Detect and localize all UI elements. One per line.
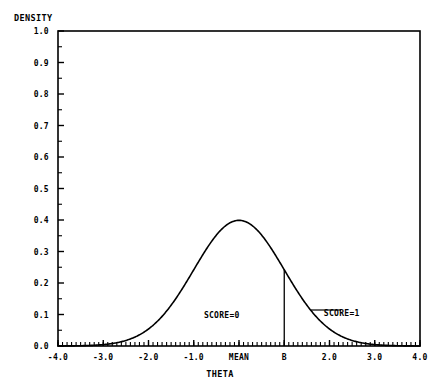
y-tick-label: 0.1 [34, 311, 49, 320]
x-tick-label: B [282, 353, 287, 362]
x-tick-label: MEAN [229, 353, 249, 362]
annotation-score-0: SCORE=0 [204, 311, 240, 320]
x-tick-label: -1.0 [184, 353, 204, 362]
annotation-score-1: SCORE=1 [324, 309, 360, 318]
y-tick-label: 0.5 [34, 185, 49, 194]
y-tick-label: 0.6 [34, 153, 49, 162]
y-axis-title: DENSITY [14, 13, 53, 23]
x-tick-label: -4.0 [48, 353, 68, 362]
y-tick-label: 0.0 [34, 342, 49, 351]
x-axis-title: THETA [206, 369, 234, 379]
y-tick-label: 0.4 [34, 216, 49, 225]
x-tick-label: 2.0 [322, 353, 337, 362]
y-tick-label: 0.7 [34, 122, 49, 131]
x-tick-label: 3.0 [367, 353, 382, 362]
x-tick-label: -3.0 [93, 353, 113, 362]
y-tick-label: 0.8 [34, 90, 49, 99]
x-tick-label: -2.0 [138, 353, 158, 362]
y-tick-label: 0.9 [34, 59, 49, 68]
y-tick-label: 0.2 [34, 279, 49, 288]
x-tick-label: 4.0 [412, 353, 427, 362]
chart-text-layer: DENSITY THETA -4.0-3.0-2.0-1.0MEANB2.03.… [0, 0, 441, 389]
y-tick-label: 0.3 [34, 248, 49, 257]
y-tick-label: 1.0 [34, 27, 49, 36]
density-chart: DENSITY THETA -4.0-3.0-2.0-1.0MEANB2.03.… [0, 0, 441, 389]
